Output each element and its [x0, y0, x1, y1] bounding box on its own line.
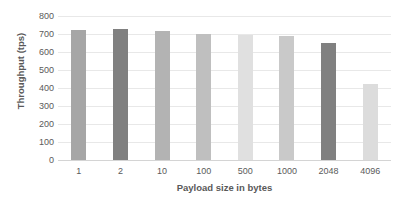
bar — [71, 30, 86, 161]
bar-slot — [100, 16, 142, 160]
x-axis-tick-label: 1000 — [266, 164, 308, 178]
y-axis-tick-labels: 0100200300400500600700800 — [28, 10, 54, 162]
bar-slot — [58, 16, 100, 160]
y-axis-tick-label: 200 — [28, 119, 54, 129]
bar — [155, 31, 170, 160]
bar-slot — [308, 16, 350, 160]
bar-series — [58, 16, 391, 160]
plot-area — [58, 16, 391, 160]
y-axis-tick-label: 600 — [28, 47, 54, 57]
x-axis-tick-label: 2048 — [308, 164, 350, 178]
axis-line-zero — [58, 160, 391, 161]
bar — [196, 34, 211, 160]
x-axis-title: Payload size in bytes — [58, 182, 391, 194]
x-axis-tick-label: 1 — [58, 164, 100, 178]
bar — [113, 29, 128, 160]
bar-slot — [183, 16, 225, 160]
bar — [321, 43, 336, 160]
bar — [279, 36, 294, 160]
y-axis-tick-label: 500 — [28, 65, 54, 75]
x-axis-tick-label: 2 — [100, 164, 142, 178]
bar-chart: Throughput (tps) 01002003004005006007008… — [0, 0, 399, 202]
x-axis-tick-label: 500 — [225, 164, 267, 178]
bar — [238, 35, 253, 160]
x-axis-tick-labels: 1210100500100020484096 — [58, 164, 391, 178]
x-axis-tick-label: 4096 — [349, 164, 391, 178]
y-axis-tick-label: 400 — [28, 83, 54, 93]
y-axis-tick-label: 800 — [28, 11, 54, 21]
x-axis-tick-label: 10 — [141, 164, 183, 178]
y-axis-tick-label: 300 — [28, 101, 54, 111]
bar — [363, 84, 378, 161]
y-axis-tick-label: 0 — [28, 155, 54, 165]
y-axis-tick-label: 700 — [28, 29, 54, 39]
x-axis-tick-label: 100 — [183, 164, 225, 178]
y-axis-title: Throughput (tps) — [14, 0, 28, 146]
y-axis-tick-label: 100 — [28, 137, 54, 147]
bar-slot — [225, 16, 267, 160]
bar-slot — [349, 16, 391, 160]
bar-slot — [266, 16, 308, 160]
bar-slot — [141, 16, 183, 160]
